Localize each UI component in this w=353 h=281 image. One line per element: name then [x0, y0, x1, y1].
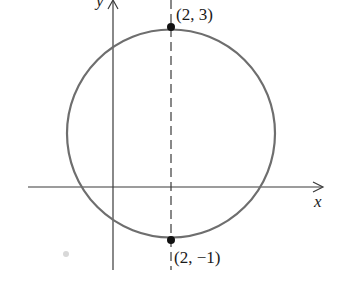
y-axis	[108, 0, 118, 270]
point-bottom	[167, 236, 175, 244]
point-top-label: (2, 3)	[176, 5, 213, 24]
x-axis-label: x	[313, 192, 322, 211]
x-axis	[28, 182, 323, 192]
coordinate-diagram: (2, 3) (2, −1) x y	[0, 0, 353, 281]
point-bottom-label: (2, −1)	[174, 248, 220, 267]
y-axis-label: y	[94, 0, 104, 10]
scan-smudge	[63, 251, 69, 257]
point-top	[167, 23, 175, 31]
